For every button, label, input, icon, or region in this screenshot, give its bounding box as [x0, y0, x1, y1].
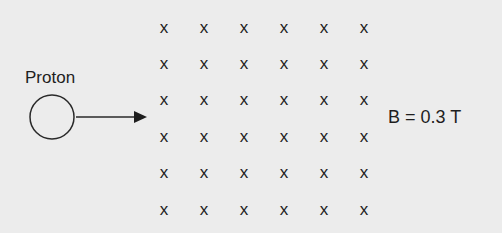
field-into-page-icon: x [196, 164, 212, 181]
field-into-page-icon: x [276, 19, 292, 36]
field-into-page-icon: x [356, 128, 372, 145]
field-into-page-icon: x [276, 128, 292, 145]
field-into-page-icon: x [196, 128, 212, 145]
field-into-page-icon: x [316, 91, 332, 108]
field-into-page-icon: x [276, 201, 292, 218]
magnetic-field-label: B = 0.3 T [388, 107, 461, 128]
field-into-page-icon: x [236, 128, 252, 145]
field-into-page-icon: x [316, 128, 332, 145]
proton-label: Proton [25, 68, 75, 88]
field-into-page-icon: x [156, 164, 172, 181]
field-into-page-icon: x [196, 19, 212, 36]
field-into-page-icon: x [156, 19, 172, 36]
field-into-page-icon: x [236, 91, 252, 108]
field-into-page-icon: x [316, 19, 332, 36]
field-into-page-icon: x [276, 91, 292, 108]
field-into-page-icon: x [356, 55, 372, 72]
arrowhead-icon [134, 111, 147, 123]
field-into-page-icon: x [156, 128, 172, 145]
field-into-page-icon: x [236, 201, 252, 218]
field-into-page-icon: x [356, 164, 372, 181]
diagram-canvas: Proton B = 0.3 T xxxxxxxxxxxxxxxxxxxxxxx… [0, 0, 502, 233]
field-into-page-icon: x [196, 201, 212, 218]
field-into-page-icon: x [276, 164, 292, 181]
field-into-page-icon: x [196, 91, 212, 108]
field-into-page-icon: x [156, 91, 172, 108]
field-into-page-icon: x [156, 55, 172, 72]
field-into-page-icon: x [196, 55, 212, 72]
field-into-page-icon: x [236, 55, 252, 72]
field-into-page-icon: x [156, 201, 172, 218]
field-into-page-icon: x [356, 19, 372, 36]
proton-circle [30, 95, 74, 139]
field-into-page-icon: x [316, 55, 332, 72]
field-into-page-icon: x [356, 201, 372, 218]
field-into-page-icon: x [316, 201, 332, 218]
field-into-page-icon: x [276, 55, 292, 72]
field-into-page-icon: x [236, 19, 252, 36]
field-into-page-icon: x [316, 164, 332, 181]
field-into-page-icon: x [236, 164, 252, 181]
field-into-page-icon: x [356, 91, 372, 108]
